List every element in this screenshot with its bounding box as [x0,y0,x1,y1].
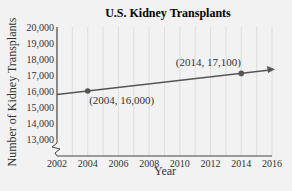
arrow-head-icon [267,66,275,73]
y-tick-label: 20,000 [27,22,55,33]
y-tick-label: 18,000 [27,54,55,65]
y-tick-label: 15,000 [27,102,55,113]
y-tick-label: 16,000 [27,86,55,97]
y-axis-label: Number of Kidney Transplants [5,17,19,166]
point-annotation: (2014, 17,100) [176,56,241,69]
x-tick-label: 2014 [231,158,251,169]
gridlines [72,27,272,156]
x-axis-label: Year [154,164,176,178]
x-tick-label: 2004 [78,158,98,169]
x-tick-label: 2006 [108,158,128,169]
data-point [85,88,91,94]
x-tick-label: 2012 [201,158,221,169]
data-point [238,71,244,77]
y-tick-label: 14,000 [27,118,55,129]
x-tick-label: 2002 [47,158,67,169]
y-tick-label: 17,000 [27,70,55,81]
chart-title: U.S. Kidney Transplants [105,6,231,20]
y-axis-ticks: 13,00014,00015,00016,00017,00018,00019,0… [27,22,55,145]
x-tick-label: 2016 [262,158,282,169]
y-tick-label: 13,000 [27,134,55,145]
line-chart: U.S. Kidney Transplants 13,00014,00015,0… [0,0,292,191]
y-tick-label: 19,000 [27,38,55,49]
point-annotation: (2004, 16,000) [89,94,154,107]
